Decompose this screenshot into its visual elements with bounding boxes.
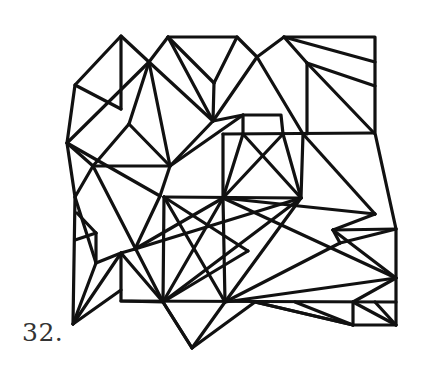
figure-lines: [67, 36, 396, 348]
problem-number-label: 32.: [22, 318, 63, 347]
